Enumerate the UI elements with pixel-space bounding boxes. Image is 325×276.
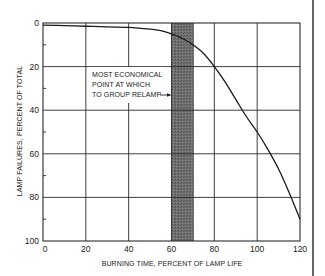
x-axis-tick-labels: 020406080100120 — [43, 244, 308, 254]
x-tick-label: 80 — [210, 244, 220, 254]
y-tick-label: 0 — [34, 18, 39, 28]
y-tick-label: 60 — [30, 149, 40, 159]
chart-container: 020406080100120 020406080100 BURNING TIM… — [0, 0, 325, 276]
annotation-line-3: TO GROUP RELAMP — [92, 91, 162, 98]
x-tick-label: 0 — [43, 244, 48, 254]
y-tick-label: 40 — [30, 105, 40, 115]
x-tick-label: 20 — [81, 244, 91, 254]
x-tick-label: 60 — [167, 244, 177, 254]
x-tick-label: 120 — [293, 244, 307, 254]
chart-grid — [43, 23, 300, 241]
economical-relamp-band — [172, 23, 194, 241]
x-tick-label: 100 — [250, 244, 264, 254]
x-axis-title: BURNING TIME, PERCENT OF LAMP LIFE — [102, 260, 243, 267]
y-tick-label: 20 — [30, 62, 40, 72]
lamp-failure-chart: 020406080100120 020406080100 BURNING TIM… — [0, 0, 325, 276]
y-axis-tick-labels: 020406080100 — [25, 18, 39, 246]
x-tick-label: 40 — [124, 244, 134, 254]
annotation-line-1: MOST ECONOMICAL — [92, 71, 163, 78]
annotation-line-2: POINT AT WHICH — [92, 81, 150, 88]
shaded-band — [172, 23, 194, 241]
y-tick-label: 100 — [25, 236, 39, 246]
y-axis-title: LAMP FAILURES, PERCENT OF TOTAL — [16, 66, 23, 196]
y-tick-label: 80 — [30, 192, 40, 202]
